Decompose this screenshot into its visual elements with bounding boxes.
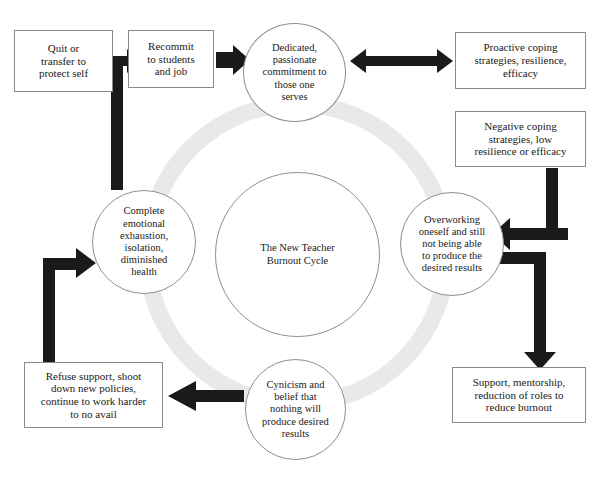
cycle-node-cynicism[interactable]: Cynicism and belief that nothing will pr… — [245, 359, 346, 460]
box-quit-or-transfer-label: Quit or transfer to protect self — [19, 42, 108, 80]
cycle-node-exhaustion-label: Complete emotional exhaustion, isolation… — [93, 205, 195, 278]
connector-refuse-to-exhaustion — [43, 248, 96, 362]
box-proactive-coping[interactable]: Proactive coping strategies, resilience,… — [455, 32, 586, 89]
cycle-node-overworking[interactable]: Overworking oneself and still not being … — [400, 192, 504, 296]
box-negative-coping-label: Negative coping strategies, low resilien… — [460, 120, 581, 158]
center-circle-label: The New Teacher Burnout Cycle — [216, 242, 379, 266]
cycle-node-dedicated[interactable]: Dedicated, passionate commitment to thos… — [243, 23, 346, 122]
box-refuse-support-label: Refuse support, shoot down new policies,… — [29, 370, 158, 421]
box-recommit[interactable]: Recommit to students and job — [128, 30, 214, 88]
box-support-mentorship[interactable]: Support, mentorship, reduction of roles … — [452, 367, 586, 423]
cycle-node-overworking-label: Overworking oneself and still not being … — [401, 214, 503, 275]
connector-dedicated-proactive-double — [350, 48, 453, 73]
box-support-mentorship-label: Support, mentorship, reduction of roles … — [457, 376, 581, 414]
box-refuse-support[interactable]: Refuse support, shoot down new policies,… — [24, 362, 163, 428]
cycle-node-exhaustion[interactable]: Complete emotional exhaustion, isolation… — [92, 190, 196, 294]
center-circle-burnout-cycle: The New Teacher Burnout Cycle — [215, 172, 380, 337]
cycle-node-cynicism-label: Cynicism and belief that nothing will pr… — [246, 379, 345, 440]
box-proactive-coping-label: Proactive coping strategies, resilience,… — [460, 41, 581, 79]
cycle-node-dedicated-label: Dedicated, passionate commitment to thos… — [244, 42, 345, 103]
box-negative-coping[interactable]: Negative coping strategies, low resilien… — [455, 111, 586, 167]
box-recommit-label: Recommit to students and job — [133, 40, 209, 78]
box-quit-or-transfer[interactable]: Quit or transfer to protect self — [14, 30, 113, 92]
burnout-cycle-diagram: The New Teacher Burnout Cycle Dedicated,… — [0, 0, 599, 481]
